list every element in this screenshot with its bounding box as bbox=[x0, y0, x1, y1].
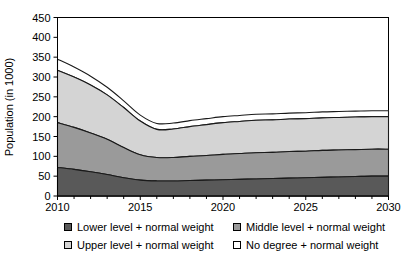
legend-item-upper-level: Upper level + normal weight bbox=[64, 237, 214, 253]
y-tick-label: 300 bbox=[32, 71, 50, 83]
y-tick-label: 150 bbox=[32, 131, 50, 143]
chart-legend: Lower level + normal weight Upper level … bbox=[0, 219, 410, 261]
legend-column-2: Middle level + normal weight No degree +… bbox=[233, 219, 385, 255]
y-tick-label: 200 bbox=[32, 111, 50, 123]
y-tick-label: 350 bbox=[32, 51, 50, 63]
y-tick-label: 400 bbox=[32, 31, 50, 43]
legend-label-lower-level: Lower level + normal weight bbox=[77, 222, 214, 233]
x-tick-label: 2010 bbox=[45, 201, 69, 213]
y-axis-ticks: 050100150200250300350400450 bbox=[32, 12, 57, 203]
chart-figure: 0501001502002503003504004502010201520202… bbox=[0, 0, 410, 261]
legend-item-no-degree: No degree + normal weight bbox=[233, 237, 385, 253]
legend-swatch-icon-middle-level bbox=[233, 223, 241, 231]
y-tick-label: 50 bbox=[38, 170, 50, 182]
x-tick-label: 2030 bbox=[376, 201, 400, 213]
legend-swatch-icon-upper-level bbox=[64, 241, 72, 249]
y-tick-label: 100 bbox=[32, 150, 50, 162]
legend-swatch-icon-no-degree bbox=[233, 241, 241, 249]
stacked-area-chart: 0501001502002503003504004502010201520202… bbox=[0, 0, 410, 219]
y-axis-title: Population (in 1000) bbox=[3, 58, 15, 156]
legend-item-lower-level: Lower level + normal weight bbox=[64, 219, 214, 235]
legend-column-1: Lower level + normal weight Upper level … bbox=[64, 219, 214, 255]
legend-label-upper-level: Upper level + normal weight bbox=[77, 240, 214, 251]
x-tick-label: 2015 bbox=[128, 201, 152, 213]
x-axis-ticks: 20102015202020252030 bbox=[45, 196, 400, 213]
legend-label-no-degree: No degree + normal weight bbox=[246, 240, 378, 251]
legend-swatch-icon-lower-level bbox=[64, 223, 72, 231]
x-tick-label: 2020 bbox=[211, 201, 235, 213]
legend-item-middle-level: Middle level + normal weight bbox=[233, 219, 385, 235]
legend-label-middle-level: Middle level + normal weight bbox=[246, 222, 385, 233]
x-tick-label: 2025 bbox=[294, 201, 318, 213]
y-tick-label: 250 bbox=[32, 91, 50, 103]
y-tick-label: 450 bbox=[32, 12, 50, 24]
